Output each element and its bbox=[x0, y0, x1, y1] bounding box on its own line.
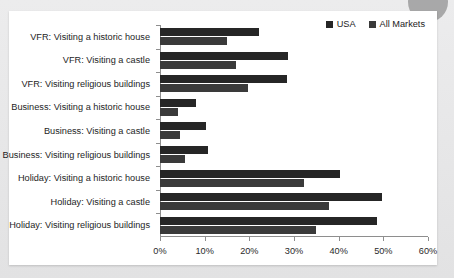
bar-all-markets bbox=[160, 202, 329, 210]
x-axis-tick bbox=[205, 237, 206, 241]
x-axis-tick-label: 0% bbox=[153, 246, 166, 256]
bar-all-markets bbox=[160, 131, 180, 139]
chart-card: USAAll Markets 0%10%20%30%40%50%60%VFR: … bbox=[9, 11, 437, 265]
y-axis-category-label: Holiday: Visiting religious buildings bbox=[9, 220, 150, 230]
bar-usa bbox=[160, 28, 259, 36]
x-axis-tick-label: 60% bbox=[419, 246, 437, 256]
bar-usa bbox=[160, 217, 377, 225]
y-axis-tick bbox=[156, 119, 160, 120]
bar-all-markets bbox=[160, 226, 316, 234]
chart-category-row: Business: Visiting a castle bbox=[160, 119, 428, 143]
y-axis-category-label: VFR: Visiting a historic house bbox=[30, 32, 150, 42]
x-axis-tick-label: 20% bbox=[240, 246, 258, 256]
x-axis-tick-label: 30% bbox=[285, 246, 303, 256]
chart-plot-area: USAAll Markets 0%10%20%30%40%50%60%VFR: … bbox=[9, 11, 437, 265]
bar-all-markets bbox=[160, 61, 236, 69]
x-axis-tick bbox=[294, 237, 295, 241]
x-axis-tick bbox=[383, 237, 384, 241]
y-axis-tick bbox=[156, 213, 160, 214]
y-axis-tick bbox=[156, 72, 160, 73]
y-axis-category-label: Business: Visiting a castle bbox=[44, 126, 150, 136]
y-axis-tick bbox=[156, 25, 160, 26]
chart-category-row: Holiday: Visiting religious buildings bbox=[160, 213, 428, 237]
y-axis-category-label: Holiday: Visiting a castle bbox=[51, 197, 150, 207]
bar-all-markets bbox=[160, 37, 227, 45]
bar-usa bbox=[160, 52, 288, 60]
chart-category-row: VFR: Visiting a castle bbox=[160, 49, 428, 73]
y-axis-category-label: VFR: Visiting religious buildings bbox=[21, 79, 150, 89]
bar-usa bbox=[160, 99, 196, 107]
bar-all-markets bbox=[160, 155, 185, 163]
x-axis-tick-label: 50% bbox=[374, 246, 392, 256]
y-axis-tick bbox=[156, 166, 160, 167]
chart-category-row: Holiday: Visiting a historic house bbox=[160, 166, 428, 190]
x-axis-tick-label: 10% bbox=[195, 246, 213, 256]
y-axis-category-label: VFR: Visiting a castle bbox=[63, 55, 150, 65]
y-axis-tick bbox=[156, 143, 160, 144]
x-axis-tick bbox=[339, 237, 340, 241]
bar-usa bbox=[160, 170, 340, 178]
bar-all-markets bbox=[160, 179, 304, 187]
bar-all-markets bbox=[160, 108, 178, 116]
x-axis-tick-label: 40% bbox=[329, 246, 347, 256]
y-axis-category-label: Holiday: Visiting a historic house bbox=[18, 173, 150, 183]
bar-usa bbox=[160, 122, 206, 130]
chart-category-row: Business: Visiting a historic house bbox=[160, 96, 428, 120]
bar-chart: 0%10%20%30%40%50%60%VFR: Visiting a hist… bbox=[160, 25, 428, 237]
y-axis-tick bbox=[156, 49, 160, 50]
x-axis-tick bbox=[160, 237, 161, 241]
x-axis-tick bbox=[428, 237, 429, 241]
bar-usa bbox=[160, 193, 382, 201]
bar-usa bbox=[160, 146, 208, 154]
chart-category-row: Holiday: Visiting a castle bbox=[160, 190, 428, 214]
y-axis-tick bbox=[156, 96, 160, 97]
y-axis-category-label: Business: Visiting religious buildings bbox=[3, 150, 150, 160]
chart-category-row: Business: Visiting religious buildings bbox=[160, 143, 428, 167]
y-axis-category-label: Business: Visiting a historic house bbox=[11, 102, 150, 112]
bar-all-markets bbox=[160, 84, 248, 92]
x-axis-tick bbox=[249, 237, 250, 241]
chart-category-row: VFR: Visiting a historic house bbox=[160, 25, 428, 49]
chart-category-row: VFR: Visiting religious buildings bbox=[160, 72, 428, 96]
y-axis-tick bbox=[156, 190, 160, 191]
bar-usa bbox=[160, 75, 287, 83]
